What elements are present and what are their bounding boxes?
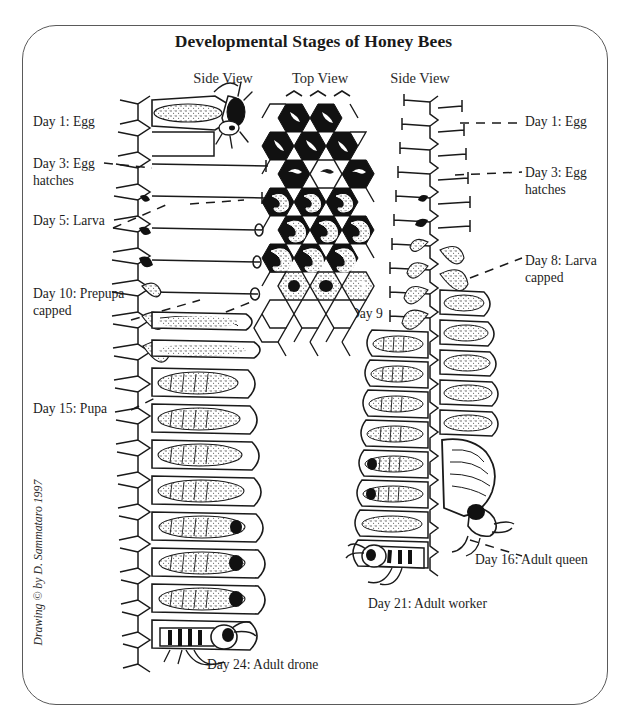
top-view-egg-cells — [262, 104, 358, 160]
top-view-hatching-cells — [278, 160, 374, 188]
right-comb-right-cells — [438, 100, 514, 556]
top-view-larvae-cells — [262, 188, 374, 272]
honey-bee-development-illustration — [0, 0, 627, 722]
queen-cell — [442, 439, 514, 556]
top-view-comb — [254, 91, 374, 356]
top-view-capped-cells — [262, 272, 374, 328]
adult-drone-emerging — [152, 620, 257, 665]
left-eggs-and-larvae — [139, 195, 153, 267]
queen-bee-laying — [152, 82, 252, 148]
left-comb-side-view — [112, 82, 268, 672]
right-comb-side-view — [346, 94, 514, 585]
left-capped-cells — [152, 312, 260, 358]
left-pupa-cells — [152, 368, 265, 614]
